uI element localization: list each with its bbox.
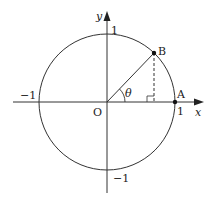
point-B [152, 51, 156, 55]
x-axis-arrow-icon [194, 99, 204, 106]
tick-y-pos: 1 [111, 24, 118, 37]
y-axis-arrow-icon [104, 11, 111, 21]
tick-y-neg: −1 [113, 172, 129, 185]
unit-circle-diagram: B A O θ 1 −1 1 −1 x y [0, 0, 219, 207]
tick-x-pos: 1 [177, 105, 184, 118]
tick-x-neg: −1 [20, 89, 36, 102]
angle-theta-label: θ [125, 87, 132, 100]
point-A-label: A [176, 88, 186, 101]
x-axis-label: x [195, 106, 202, 119]
right-angle-marker [147, 96, 154, 102]
y-axis-label: y [95, 10, 103, 23]
origin-label: O [93, 106, 102, 119]
point-B-label: B [158, 45, 166, 58]
